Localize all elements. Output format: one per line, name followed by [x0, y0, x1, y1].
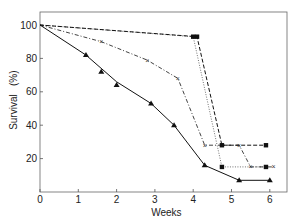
y-tick-label: 80: [26, 53, 38, 64]
x-marker: ×: [176, 75, 180, 82]
triangle-marker: [83, 52, 89, 57]
series-cross-dashdot: ×××××××: [40, 25, 276, 170]
axis-ticks: 012345620406080100: [20, 20, 273, 206]
x-tick-label: 0: [37, 194, 43, 205]
square-marker: [264, 165, 268, 169]
series-square-dashed: [40, 25, 268, 147]
x-axis-label: Weeks: [151, 207, 181, 218]
x-marker: ×: [237, 142, 241, 149]
x-marker: ×: [272, 163, 276, 170]
square-marker: [220, 165, 224, 169]
x-tick-label: 1: [76, 194, 82, 205]
triangle-marker: [98, 69, 104, 74]
series-triangle-solid: [40, 25, 273, 182]
x-tick-label: 2: [114, 194, 120, 205]
triangle-marker: [148, 100, 154, 105]
survival-chart: 012345620406080100 ××××××× Weeks Surviva…: [0, 0, 301, 220]
data-series: ×××××××: [40, 25, 276, 182]
x-marker: ×: [99, 38, 103, 45]
y-tick-label: 100: [20, 20, 37, 31]
y-tick-label: 40: [26, 120, 38, 131]
x-tick-label: 5: [229, 194, 235, 205]
x-marker: ×: [145, 57, 149, 64]
x-tick-label: 3: [152, 194, 158, 205]
square-marker: [264, 143, 268, 147]
x-tick-label: 4: [190, 194, 196, 205]
y-tick-label: 20: [26, 153, 38, 164]
y-axis-label: Survival (%): [8, 70, 19, 129]
square-marker: [191, 34, 195, 38]
x-tick-label: 6: [267, 194, 273, 205]
x-marker: ×: [249, 163, 253, 170]
square-marker: [195, 34, 199, 38]
x-marker: ×: [203, 142, 207, 149]
y-tick-label: 60: [26, 86, 38, 97]
series-square-dotted: [40, 25, 268, 169]
